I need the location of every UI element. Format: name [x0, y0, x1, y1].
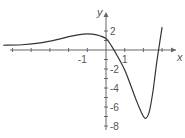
y-axis-label: y: [96, 6, 104, 18]
x-axis-arrow-icon: [171, 48, 176, 53]
x-tick-label: 1: [122, 54, 128, 65]
x-axis-label: x: [176, 51, 183, 63]
function-curve: [3, 27, 162, 118]
y-tick-label: 2: [110, 26, 116, 37]
y-tick-label: -2: [110, 64, 119, 75]
x-tick-label: -1: [78, 54, 87, 65]
y-tick-label: -8: [110, 121, 119, 132]
y-tick-label: -6: [110, 102, 119, 113]
y-axis-arrow-icon: [104, 12, 109, 17]
chart: -112-2-4-6-8xy: [0, 0, 185, 138]
y-tick-label: -4: [110, 83, 119, 94]
